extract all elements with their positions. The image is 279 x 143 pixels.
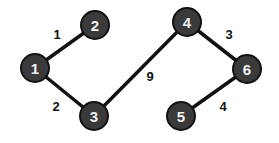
edge-weight-4-6: 3 (225, 27, 232, 42)
node-1: 1 (21, 54, 49, 82)
node-5: 5 (167, 102, 195, 130)
edge-weights: 1 2 9 3 4 (52, 27, 232, 114)
edge-3-4 (94, 22, 187, 116)
node-label: 2 (91, 17, 99, 34)
graph-diagram: 1 2 9 3 4 1 2 3 4 5 6 (0, 0, 279, 143)
node-3: 3 (80, 102, 108, 130)
node-4: 4 (173, 8, 201, 36)
node-label: 5 (177, 108, 185, 125)
edge-weight-3-4: 9 (146, 69, 153, 84)
node-label: 1 (31, 60, 39, 77)
node-label: 3 (90, 108, 98, 125)
edges (35, 22, 247, 116)
node-label: 4 (183, 14, 192, 31)
edge-weight-1-3: 2 (52, 99, 59, 114)
edge-weight-6-5: 4 (219, 99, 227, 114)
node-2: 2 (81, 11, 109, 39)
node-label: 6 (243, 61, 251, 78)
node-6: 6 (233, 55, 261, 83)
edge-weight-1-2: 1 (53, 27, 60, 42)
